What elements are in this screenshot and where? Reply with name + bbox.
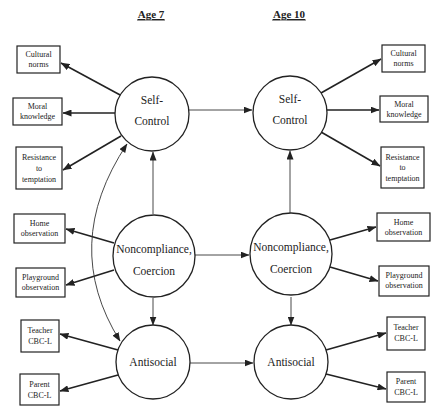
box-label: Parent (396, 377, 417, 386)
indicator-playground-observation-age10: Playground observation (379, 266, 429, 296)
latent-self-control-age10: Self- Control (253, 76, 327, 150)
box-label: knowledge (20, 112, 56, 121)
box-label: Cultural (25, 50, 52, 59)
indicator-cultural-norms-age10: Cultural norms (382, 45, 425, 72)
box-label: to (36, 164, 42, 173)
circle-label: Coercion (133, 265, 175, 277)
arrow-sc10-cultural (321, 59, 381, 93)
indicator-teacher-cbcl-age10: Teacher CBC-L (387, 317, 425, 350)
circle-label: Coercion (270, 263, 312, 275)
arrow-sc10-resistance (321, 132, 380, 166)
arrow-as7-parent (60, 375, 118, 391)
arrow-as10-parent (326, 374, 386, 389)
path-model-diagram: Age 7 Age 10 Cultural norms Moral knowle… (0, 0, 442, 417)
arrow-sc7-resistance (63, 136, 121, 170)
circle-label: Antisocial (129, 356, 176, 368)
box-label: to (399, 163, 405, 172)
box-label: CBC-L (394, 388, 418, 397)
box-label: Resistance (22, 153, 57, 162)
indicator-playground-observation-age7: Playground observation (16, 268, 65, 297)
box-label: Teacher (393, 323, 419, 332)
latent-antisocial-age7: Antisocial (116, 325, 190, 399)
box-label: observation (385, 228, 422, 237)
arrow-nc10-home (330, 227, 376, 240)
indicator-home-observation-age7: Home observation (14, 214, 65, 243)
latent-noncompliance-age7: Noncompliance, Coercion (113, 215, 195, 297)
indicator-parent-cbcl-age7: Parent CBC-L (20, 374, 59, 405)
box-label: Playground (386, 271, 423, 280)
arrow-nc7-home (66, 229, 114, 243)
arrow-sc7-cultural (61, 63, 122, 96)
circle-label: Noncompliance, (116, 243, 192, 256)
box-label: CBC-L (394, 334, 418, 343)
arrow-nc7-playground (66, 270, 114, 285)
latent-noncompliance-age10: Noncompliance, Coercion (250, 213, 332, 295)
box-label: temptation (385, 174, 419, 183)
indicator-cultural-norms-age7: Cultural norms (17, 46, 60, 73)
box-label: Playground (22, 273, 59, 282)
circle-label: Control (272, 114, 307, 126)
indicator-teacher-cbcl-age7: Teacher CBC-L (21, 320, 59, 352)
header-age-7: Age 7 (138, 8, 165, 20)
box-label: observation (22, 283, 59, 292)
box-label: Home (394, 218, 414, 227)
arrow-as10-teacher (326, 333, 386, 350)
box-label: CBC-L (28, 391, 52, 400)
box-label: Home (30, 219, 50, 228)
arrow-as7-teacher (60, 334, 118, 350)
box-label: knowledge (386, 110, 422, 119)
indicator-resistance-age7: Resistance to temptation (16, 147, 62, 189)
box-label: Resistance (385, 153, 420, 162)
circle-label: Self- (141, 94, 164, 106)
indicator-home-observation-age10: Home observation (377, 213, 430, 241)
indicator-parent-cbcl-age10: Parent CBC-L (387, 372, 425, 402)
box-label: Teacher (27, 326, 53, 335)
circle-label: Control (134, 115, 169, 127)
box-label: Moral (394, 100, 414, 109)
header-age-10: Age 10 (273, 8, 306, 20)
indicator-moral-knowledge-age7: Moral knowledge (13, 98, 62, 125)
latent-antisocial-age10: Antisocial (254, 325, 328, 399)
indicator-moral-knowledge-age10: Moral knowledge (380, 96, 428, 122)
box-label: Parent (29, 380, 50, 389)
arrow-nc10-playground (330, 267, 378, 281)
box-label: Moral (28, 102, 48, 111)
circle-label: Noncompliance, (253, 241, 329, 254)
latent-self-control-age7: Self- Control (115, 77, 189, 151)
box-label: temptation (22, 175, 56, 184)
box-label: observation (385, 281, 422, 290)
box-label: Cultural (390, 49, 417, 58)
circle-label: Antisocial (267, 356, 314, 368)
indicator-resistance-age10: Resistance to temptation (381, 147, 424, 188)
box-label: CBC-L (28, 337, 52, 346)
box-label: observation (21, 229, 58, 238)
box-label: norms (29, 60, 49, 69)
circle-label: Self- (279, 93, 302, 105)
box-label: norms (394, 59, 414, 68)
